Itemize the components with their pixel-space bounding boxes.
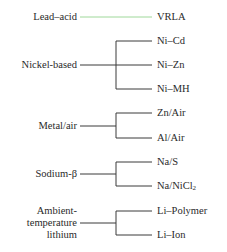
leaf-vrla: VRLA <box>157 11 186 23</box>
category-sodium-beta: Sodium-β <box>35 168 77 180</box>
leaf-na-s: Na/S <box>157 156 178 168</box>
leaf-ni-mh: Ni–MH <box>157 83 190 95</box>
leaf-zn-air: Zn/Air <box>157 107 186 119</box>
category-lead-acid: Lead–acid <box>33 11 77 23</box>
category-ambient-temperature-lithium: Ambient- temperature lithium <box>27 205 77 241</box>
leaf-li-polymer: Li–Polymer <box>157 205 207 217</box>
leaf-li-ion: Li–Ion <box>157 229 186 241</box>
leaf-al-air: Al/Air <box>157 132 184 144</box>
category-metal-air: Metal/air <box>39 120 77 132</box>
leaf-na-nicl2: Na/NiCl2 <box>157 180 196 194</box>
leaf-ni-cd: Ni–Cd <box>157 35 185 47</box>
category-nickel-based: Nickel-based <box>22 59 77 71</box>
leaf-ni-zn: Ni–Zn <box>157 59 184 71</box>
